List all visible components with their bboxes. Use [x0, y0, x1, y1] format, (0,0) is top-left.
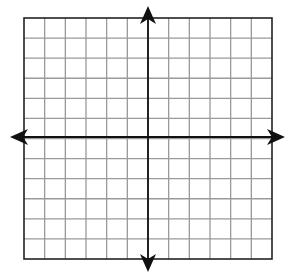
coordinate-grid: [0, 0, 298, 278]
